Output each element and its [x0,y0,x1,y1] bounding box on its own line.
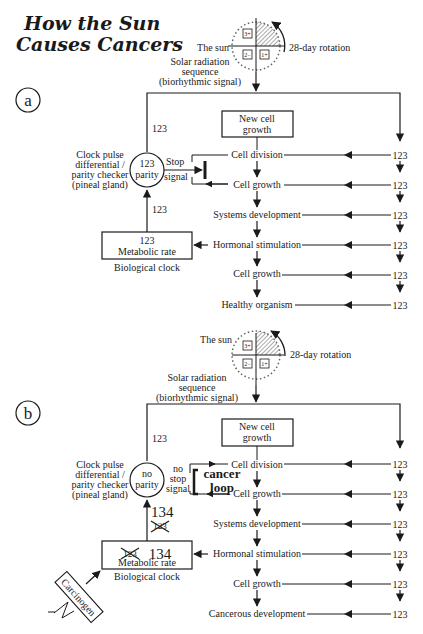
svg-text:Biological clock: Biological clock [114,262,180,273]
svg-text:134: 134 [151,504,174,520]
svg-text:28-day rotation: 28-day rotation [290,349,351,360]
svg-text:2−: 2− [244,361,251,367]
svg-text:signal: signal [166,483,190,494]
svg-text:123: 123 [393,549,408,560]
svg-text:123: 123 [393,180,408,191]
diagram-canvas: How the Sun Causes Cancers a 3+ 2− 1+ 28… [0,0,423,634]
svg-text:123: 123 [393,609,408,620]
svg-text:123: 123 [152,123,167,134]
panel-b: b 3+ 2− 1+ 28-day rotation The sun Solar… [16,331,408,622]
svg-text:123: 123 [393,210,408,221]
metabolic-rate-box: 123 134 Metabolic rate [102,541,192,569]
svg-text:a: a [24,91,32,110]
svg-text:Causes Cancers: Causes Cancers [16,33,183,55]
svg-text:2−: 2− [244,52,251,58]
svg-text:123: 123 [393,459,408,470]
svg-text:123: 123 [152,433,167,444]
svg-text:123: 123 [140,235,155,246]
svg-text:Metabolic rate: Metabolic rate [118,246,177,257]
svg-text:(biorhythmic signal): (biorhythmic signal) [159,76,241,88]
svg-text:Cell growth: Cell growth [233,179,281,190]
svg-text:Stop: Stop [166,156,184,167]
metabolic-rate-box: 123 Metabolic rate [102,232,192,259]
svg-text:Cell division: Cell division [231,149,282,160]
svg-text:Systems development: Systems development [213,518,301,529]
svg-text:123: 123 [152,204,167,215]
svg-text:New cell: New cell [239,113,275,124]
svg-text:3+: 3+ [244,343,251,349]
sun-icon: 3+ 2− 1+ [232,331,284,385]
svg-text:New cell: New cell [239,421,275,432]
svg-text:123: 123 [393,240,408,251]
svg-text:123: 123 [393,150,408,161]
svg-text:123: 123 [393,489,408,500]
svg-text:loop: loop [210,480,234,495]
svg-text:no: no [142,468,152,479]
svg-text:(biorhythmic signal): (biorhythmic signal) [156,392,238,404]
svg-text:Cell division: Cell division [231,459,282,470]
svg-text:growth: growth [243,124,271,135]
svg-text:123: 123 [393,270,408,281]
svg-text:Hormonal stimulation: Hormonal stimulation [213,239,301,250]
svg-text:Cell growth: Cell growth [233,578,281,589]
parity-checker: no parity [130,463,164,497]
svg-text:3+: 3+ [244,31,251,37]
svg-text:parity: parity [135,169,158,180]
svg-text:Cancerous development: Cancerous development [209,608,306,619]
svg-text:Cell growth: Cell growth [233,488,281,499]
crossed-out-value: 123 [151,521,169,532]
carcinogen-label: Carcinogen [48,571,103,622]
svg-text:signal: signal [164,171,188,182]
svg-text:parity: parity [135,479,158,490]
cancer-loop-bracket [194,470,198,494]
svg-text:Biological clock: Biological clock [114,571,180,582]
new-cell-growth-box: New cell growth [222,419,293,446]
parity-checker: 123 parity [130,153,164,187]
sun-icon: 3+ 2− 1+ [228,18,284,72]
panel-a: a 3+ 2− 1+ 28-day rotation The sun Solar… [16,18,408,311]
svg-text:1+: 1+ [261,52,268,58]
svg-text:(pineal gland): (pineal gland) [72,179,128,191]
panel-label-b: b [16,401,40,425]
svg-text:Hormonal stimulation: Hormonal stimulation [213,548,301,559]
svg-text:1+: 1+ [261,361,268,367]
panel-label-a: a [16,88,40,112]
svg-text:123: 123 [393,300,408,311]
svg-text:123: 123 [140,158,155,169]
svg-text:123: 123 [393,519,408,530]
svg-text:How the Sun: How the Sun [23,12,160,34]
page-title: How the Sun Causes Cancers [16,12,183,55]
svg-text:Carcinogen: Carcinogen [59,577,98,619]
svg-text:Cell growth: Cell growth [233,268,281,279]
svg-text:28-day rotation: 28-day rotation [289,42,350,53]
svg-text:Systems development: Systems development [213,209,301,220]
svg-text:Metabolic rate: Metabolic rate [118,557,177,568]
svg-text:The sun: The sun [197,42,229,53]
svg-text:Healthy organism: Healthy organism [221,299,292,310]
svg-text:growth: growth [243,432,271,443]
svg-text:b: b [24,404,33,423]
new-cell-growth-box: New cell growth [222,111,293,137]
svg-text:The sun: The sun [200,334,232,345]
svg-text:(pineal gland): (pineal gland) [72,489,128,501]
svg-text:123: 123 [393,579,408,590]
